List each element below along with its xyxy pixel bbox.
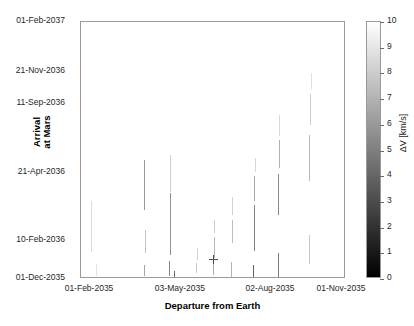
data-segment xyxy=(279,115,280,137)
y-axis-label: Arrival at Mars xyxy=(32,102,52,162)
colorbar-tick-label: 8 xyxy=(387,67,392,76)
x-tick-label: 03-May-2035 xyxy=(155,284,205,293)
data-segment xyxy=(309,235,310,263)
data-segment xyxy=(144,160,145,209)
colorbar-tick xyxy=(380,228,384,229)
data-segment xyxy=(278,253,279,278)
y-tick xyxy=(80,173,81,174)
data-segment xyxy=(253,265,254,278)
data-segment xyxy=(309,135,310,181)
colorbar-tick-label: 6 xyxy=(387,119,392,128)
y-tick-right xyxy=(344,241,345,242)
colorbar-tick xyxy=(380,22,384,23)
data-segment xyxy=(254,176,255,201)
colorbar-tick xyxy=(380,253,384,254)
y-tick-right xyxy=(344,72,345,73)
data-segment xyxy=(144,265,145,276)
x-tick-top xyxy=(181,21,182,22)
y-tick xyxy=(80,72,81,73)
data-segment xyxy=(279,140,280,168)
colorbar-tick-label: 2 xyxy=(387,222,392,231)
colorbar xyxy=(366,21,381,278)
colorbar-tick-label: 10 xyxy=(387,16,396,25)
x-axis-label: Departure from Earth xyxy=(80,300,345,311)
x-tick-label: 01-Feb-2035 xyxy=(65,284,114,293)
y-tick-right xyxy=(344,173,345,174)
colorbar-tick-label: 1 xyxy=(387,247,392,256)
data-segment xyxy=(311,73,312,88)
data-segment xyxy=(91,201,92,252)
colorbar-tick-label: 4 xyxy=(387,170,392,179)
y-axis-label-line2: at Mars xyxy=(42,102,52,162)
data-layer xyxy=(81,22,344,277)
y-tick-label: 21-Apr-2036 xyxy=(18,167,65,176)
data-segment xyxy=(255,158,256,172)
colorbar-tick xyxy=(380,202,384,203)
colorbar-tick-label: 7 xyxy=(387,93,392,102)
data-segment xyxy=(174,271,175,278)
data-segment xyxy=(214,220,215,233)
x-tick xyxy=(90,277,91,278)
x-tick-top xyxy=(90,21,91,22)
x-tick-top xyxy=(271,21,272,22)
y-tick-right xyxy=(344,22,345,23)
colorbar-tick xyxy=(380,125,384,126)
y-tick-right xyxy=(344,104,345,105)
x-tick xyxy=(181,277,182,278)
colorbar-tick xyxy=(380,99,384,100)
data-segment xyxy=(145,230,146,253)
y-tick xyxy=(80,104,81,105)
colorbar-tick xyxy=(380,151,384,152)
y-tick-label: 01-Dec-2035 xyxy=(16,273,65,282)
data-segment xyxy=(96,264,97,276)
data-segment xyxy=(232,197,233,215)
data-segment xyxy=(169,261,170,276)
colorbar-tick-label: 3 xyxy=(387,196,392,205)
data-segment xyxy=(197,248,198,260)
optimum-cross-marker xyxy=(209,255,218,264)
data-segment xyxy=(254,205,255,252)
y-tick xyxy=(80,241,81,242)
data-segment xyxy=(232,220,233,243)
y-tick xyxy=(80,22,81,23)
data-segment xyxy=(170,155,171,192)
colorbar-tick xyxy=(380,73,384,74)
colorbar-tick xyxy=(380,48,384,49)
colorbar-tick-label: 0 xyxy=(387,273,392,282)
y-tick-label: 21-Nov-2036 xyxy=(16,66,65,75)
figure-canvas: 01-Dec-203510-Feb-203621-Apr-203611-Sep-… xyxy=(0,0,414,326)
colorbar-label: ΔV [km/s] xyxy=(398,98,408,168)
colorbar-tick-label: 9 xyxy=(387,42,392,51)
x-tick-label: 01-Nov-2035 xyxy=(316,284,365,293)
data-segment xyxy=(278,174,279,215)
x-tick-top xyxy=(342,21,343,22)
data-segment xyxy=(310,94,311,125)
plot-axes xyxy=(80,21,345,278)
x-tick xyxy=(342,277,343,278)
x-tick-label: 02-Aug-2035 xyxy=(245,284,294,293)
y-tick-label: 10-Feb-2036 xyxy=(16,235,65,244)
colorbar-tick xyxy=(380,279,384,280)
colorbar-tick-label: 5 xyxy=(387,145,392,154)
data-segment xyxy=(196,263,197,273)
x-tick xyxy=(271,277,272,278)
colorbar-tick xyxy=(380,176,384,177)
data-segment xyxy=(231,262,232,277)
data-segment xyxy=(170,193,171,255)
y-tick-label: 01-Feb-2037 xyxy=(16,16,65,25)
